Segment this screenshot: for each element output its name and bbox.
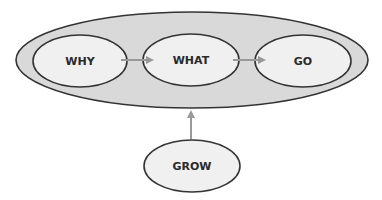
node-what[interactable]: WHAT	[143, 34, 239, 86]
node-what-label: WHAT	[173, 54, 210, 67]
diagram-canvas: WHY WHAT GO GROW	[0, 0, 382, 200]
node-go[interactable]: GO	[255, 35, 351, 87]
node-grow-label: GROW	[173, 160, 212, 173]
node-go-label: GO	[294, 55, 312, 68]
node-grow[interactable]: GROW	[144, 140, 240, 192]
node-why[interactable]: WHY	[33, 35, 127, 87]
node-why-label: WHY	[65, 55, 95, 68]
